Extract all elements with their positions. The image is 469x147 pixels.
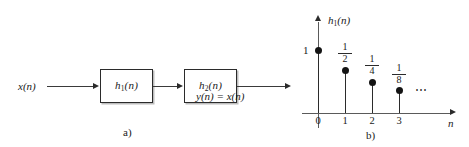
arrowhead-into-block1-icon bbox=[93, 83, 99, 89]
arrowhead-into-block2-icon bbox=[177, 83, 183, 89]
tick-label-0: 0 bbox=[311, 116, 325, 127]
stem-dot-n0 bbox=[315, 47, 322, 54]
tick-label-3: 3 bbox=[392, 116, 406, 127]
y-axis-label: h1(n) bbox=[328, 15, 350, 27]
input-signal-label: x(n) bbox=[18, 81, 36, 92]
stem-dot-n2 bbox=[369, 79, 376, 86]
value-label-n3-denominator: 8 bbox=[392, 75, 406, 85]
stem-dot-n1 bbox=[342, 67, 349, 74]
y-axis-arrow-icon bbox=[315, 15, 321, 21]
stem-line-n0 bbox=[318, 50, 320, 113]
value-label-n3: 1 8 bbox=[392, 63, 406, 85]
figure-container: x(n) h1(n) h2(n) a) y(n) = x(n) h1(n) n bbox=[0, 0, 469, 147]
value-label-n2-denominator: 4 bbox=[365, 66, 379, 76]
tick-label-1: 1 bbox=[338, 116, 352, 127]
value-label-n1-denominator: 2 bbox=[338, 54, 352, 64]
value-label-n2-numerator: 1 bbox=[365, 54, 379, 64]
value-label-n1: 1 2 bbox=[338, 42, 352, 64]
output-signal-label: y(n) = x(n) bbox=[196, 91, 244, 102]
stem-dot-n3 bbox=[396, 87, 403, 94]
x-axis-arrow-icon bbox=[450, 109, 456, 115]
value-label-n0: 1 bbox=[303, 45, 309, 56]
panel-a-block-diagram: x(n) h1(n) h2(n) a) bbox=[0, 0, 258, 147]
block-h1: h1(n) bbox=[100, 69, 153, 103]
wire-block1-to-block2 bbox=[153, 86, 179, 87]
value-label-n1-numerator: 1 bbox=[338, 42, 352, 52]
x-axis bbox=[302, 113, 452, 114]
caption-b: b) bbox=[366, 130, 375, 141]
x-axis-label: n bbox=[448, 118, 454, 129]
tick-label-2: 2 bbox=[365, 116, 379, 127]
stem-line-n2 bbox=[372, 82, 374, 113]
value-label-n2: 1 4 bbox=[365, 54, 379, 76]
stem-line-n1 bbox=[345, 70, 347, 113]
panel-b-stem-plot: h1(n) n 0 1 2 3 1 1 2 1 4 bbox=[258, 0, 469, 147]
wire-input-to-block1 bbox=[47, 86, 95, 87]
ellipsis-annotation: ⋯ bbox=[415, 84, 428, 96]
caption-a: a) bbox=[123, 127, 132, 138]
value-label-n3-numerator: 1 bbox=[392, 63, 406, 73]
block-h1-label: h1(n) bbox=[115, 79, 138, 93]
